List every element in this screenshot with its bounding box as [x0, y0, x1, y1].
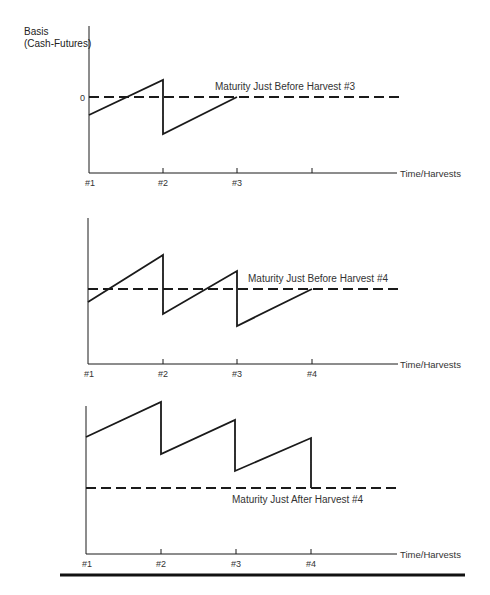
panel-2: Maturity Just Before Harvest #4 #1 #2 #3…: [84, 218, 461, 379]
x-axis-title: Time/Harvests: [400, 359, 461, 370]
x-tick-label: #3: [231, 559, 241, 569]
basis-line: [86, 402, 311, 488]
basis-line: [88, 255, 312, 326]
x-tick-label: #1: [85, 178, 95, 188]
x-tick-label: #4: [306, 559, 316, 569]
x-tick-label: #2: [158, 369, 168, 379]
maturity-annotation: Maturity Just Before Harvest #3: [215, 81, 355, 92]
x-axis-title: Time/Harvests: [400, 168, 461, 179]
zero-label: 0: [80, 93, 85, 103]
x-tick-label: #3: [232, 369, 242, 379]
panel-3: Maturity Just After Harvest #4 #1 #2 #3 …: [82, 402, 461, 569]
maturity-annotation: Maturity Just Before Harvest #4: [248, 273, 388, 284]
maturity-annotation: Maturity Just After Harvest #4: [232, 494, 364, 505]
x-tick-label: #1: [82, 559, 92, 569]
panel-1: 0 Maturity Just Before Harvest #3 #1 #2 …: [80, 26, 461, 188]
basis-diagram: 0 Maturity Just Before Harvest #3 #1 #2 …: [0, 0, 490, 595]
x-tick-label: #4: [307, 369, 317, 379]
x-tick-label: #1: [84, 369, 94, 379]
x-tick-label: #2: [156, 559, 166, 569]
x-tick-label: #3: [232, 178, 242, 188]
x-axis-title: Time/Harvests: [400, 549, 461, 560]
x-tick-label: #2: [158, 178, 168, 188]
